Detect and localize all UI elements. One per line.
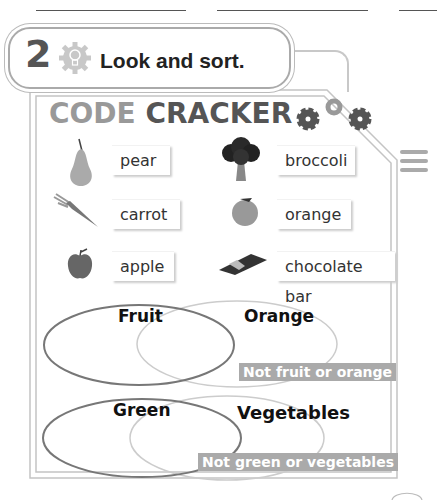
carrot-icon [52, 193, 102, 229]
code-cracker-title: CODE CRACKER [49, 97, 292, 130]
venn1-right-label: Orange [244, 306, 314, 326]
item-label-carrot[interactable]: carrot [112, 199, 180, 229]
answer-line-3 [399, 10, 437, 11]
page-corner-circle [380, 488, 437, 500]
venn2-right-label: Vegetables [237, 402, 350, 423]
item-label-orange[interactable]: orange [277, 199, 351, 229]
venn1-left-label: Fruit [118, 306, 163, 326]
item-label-chocolate-bar[interactable]: chocolate bar [277, 251, 395, 281]
venn-diagram-fruit-orange [40, 297, 385, 397]
answer-line-1 [36, 10, 186, 11]
broccoli-icon [220, 137, 262, 183]
exercise-number: 2 [25, 32, 51, 76]
item-label-apple[interactable]: apple [112, 251, 174, 281]
orange-icon [230, 195, 260, 227]
instruction-title: Look and sort. [100, 49, 245, 73]
answer-line-2 [217, 10, 368, 11]
code-text: CODE [49, 97, 136, 130]
cracker-text: CRACKER [145, 97, 292, 130]
side-decoration [400, 150, 428, 177]
item-label-pear[interactable]: pear [112, 145, 170, 175]
lightbulb-gear-icon [57, 40, 93, 76]
item-label-broccoli[interactable]: broccoli [277, 145, 355, 175]
apple-icon [65, 247, 95, 281]
venn2-left-label: Green [113, 400, 171, 420]
gears-icon [294, 95, 376, 135]
venn1-outside-label: Not fruit or orange [239, 363, 396, 381]
chocolate-bar-icon [217, 252, 269, 276]
pear-icon [65, 137, 97, 187]
venn2-outside-label: Not green or vegetables [198, 453, 398, 471]
